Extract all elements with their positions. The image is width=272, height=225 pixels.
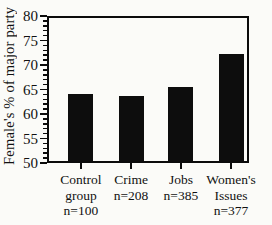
x-axis-category-label-women-s-issues: Women'sIssuesn=377 — [197, 172, 265, 219]
y-axis-tick-label: 65 — [10, 82, 38, 98]
y-axis-minor-tick — [43, 133, 47, 135]
y-axis-minor-tick — [43, 35, 47, 37]
y-axis-minor-tick — [43, 25, 47, 27]
y-axis-minor-tick — [43, 50, 47, 52]
y-axis-minor-tick — [43, 148, 47, 150]
x-axis-tick — [180, 163, 182, 169]
y-axis-major-tick — [40, 138, 47, 140]
bar-chart-figure: Female's % of major party 50556065707580… — [0, 0, 272, 225]
y-axis-minor-tick — [43, 152, 47, 154]
y-axis-minor-tick — [43, 79, 47, 81]
x-axis-label-line: n=377 — [197, 203, 265, 219]
y-axis-tick-label: 55 — [10, 131, 38, 147]
y-axis-minor-tick — [43, 157, 47, 159]
y-axis-minor-tick — [43, 143, 47, 145]
y-axis-minor-tick — [43, 99, 47, 101]
x-axis-tick — [130, 163, 132, 169]
bar-control-group — [68, 94, 93, 161]
y-axis-major-tick — [40, 64, 47, 66]
y-axis-minor-tick — [43, 118, 47, 120]
y-axis-tick-label: 75 — [10, 33, 38, 49]
y-axis-minor-tick — [43, 74, 47, 76]
y-axis-major-tick — [40, 40, 47, 42]
bar-crime — [119, 96, 144, 161]
y-axis-major-tick — [40, 15, 47, 17]
bar-women-s-issues — [219, 54, 244, 161]
y-axis-tick-label: 80 — [10, 8, 38, 24]
y-axis-tick-label: 50 — [10, 155, 38, 171]
y-axis-minor-tick — [43, 54, 47, 56]
y-axis-major-tick — [40, 89, 47, 91]
x-axis-label-line: Issues — [197, 188, 265, 204]
y-axis-minor-tick — [43, 108, 47, 110]
y-axis-minor-tick — [43, 69, 47, 71]
y-axis-tick-label: 60 — [10, 106, 38, 122]
y-axis-minor-tick — [43, 84, 47, 86]
y-axis-minor-tick — [43, 103, 47, 105]
y-axis-minor-tick — [43, 20, 47, 22]
y-axis-minor-tick — [43, 30, 47, 32]
x-axis-tick — [80, 163, 82, 169]
y-axis-minor-tick — [43, 45, 47, 47]
y-axis-minor-tick — [43, 59, 47, 61]
x-axis-tick — [230, 163, 232, 169]
y-axis-minor-tick — [43, 128, 47, 130]
y-axis-tick-label: 70 — [10, 57, 38, 73]
y-axis-minor-tick — [43, 123, 47, 125]
y-axis-minor-tick — [43, 94, 47, 96]
y-axis-major-tick — [40, 113, 47, 115]
bar-jobs — [168, 87, 193, 161]
x-axis-label-line: n=100 — [47, 203, 115, 219]
y-axis-major-tick — [40, 162, 47, 164]
x-axis-label-line: Women's — [197, 172, 265, 188]
